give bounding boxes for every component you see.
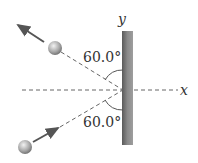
lower-angle-label: 60.0° bbox=[83, 115, 121, 129]
upper-angle-arc bbox=[105, 70, 123, 80]
lower-angle-arc bbox=[105, 100, 123, 110]
incoming-ball bbox=[18, 140, 32, 154]
outgoing-velocity-arrow bbox=[18, 25, 44, 42]
upper-angle-label: 60.0° bbox=[83, 50, 121, 64]
y-axis-label: y bbox=[118, 12, 126, 26]
x-axis-label: x bbox=[180, 83, 188, 97]
collision-diagram bbox=[0, 0, 198, 163]
outgoing-ball bbox=[48, 41, 62, 55]
incoming-velocity-arrow bbox=[33, 128, 58, 142]
wall bbox=[122, 31, 133, 145]
